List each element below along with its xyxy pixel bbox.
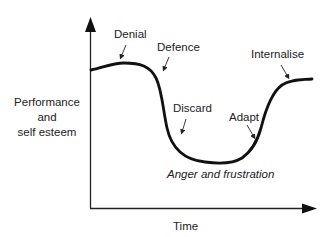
y-axis-label-line-2: and xyxy=(3,110,91,125)
y-axis-label: Performance and self esteem xyxy=(3,95,91,140)
x-axis xyxy=(90,204,317,214)
stage-label-adapt: Adapt xyxy=(229,111,259,123)
internalise-pointer xyxy=(281,65,288,77)
stage-label-defence: Defence xyxy=(157,41,200,53)
y-axis-label-line-1: Performance xyxy=(3,95,91,110)
denial-pointer xyxy=(121,45,126,57)
y-axis-label-line-3: self esteem xyxy=(3,125,91,140)
discard-pointer xyxy=(182,119,186,132)
stage-label-discard: Discard xyxy=(173,102,212,114)
adapt-pointer xyxy=(247,125,254,137)
defence-pointer xyxy=(164,57,169,69)
stage-label-denial: Denial xyxy=(114,28,147,40)
x-axis-label: Time xyxy=(173,220,198,232)
stage-label-internalise: Internalise xyxy=(251,48,304,60)
trough-label: Anger and frustration xyxy=(167,168,274,180)
